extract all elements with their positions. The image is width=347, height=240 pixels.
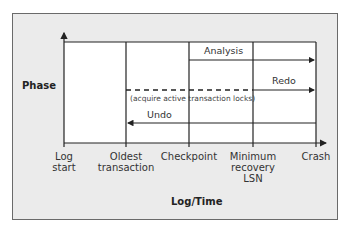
y-axis-title: Phase — [22, 80, 56, 91]
undo-label: Undo — [147, 109, 172, 120]
x-tick-oldest-transaction: Oldest transaction — [96, 151, 156, 173]
x-axis-title: Log/Time — [171, 196, 223, 207]
x-tick-log-start: Log start — [44, 151, 84, 173]
redo-label: Redo — [272, 75, 296, 86]
x-tick-crash: Crash — [296, 151, 336, 162]
x-tick-min-recovery-lsn: Minimum recovery LSN — [223, 151, 283, 184]
analysis-label: Analysis — [204, 45, 243, 56]
redo-note: (acquire active transaction locks) — [130, 94, 255, 103]
x-tick-checkpoint: Checkpoint — [159, 151, 219, 162]
plot-area — [64, 42, 316, 143]
